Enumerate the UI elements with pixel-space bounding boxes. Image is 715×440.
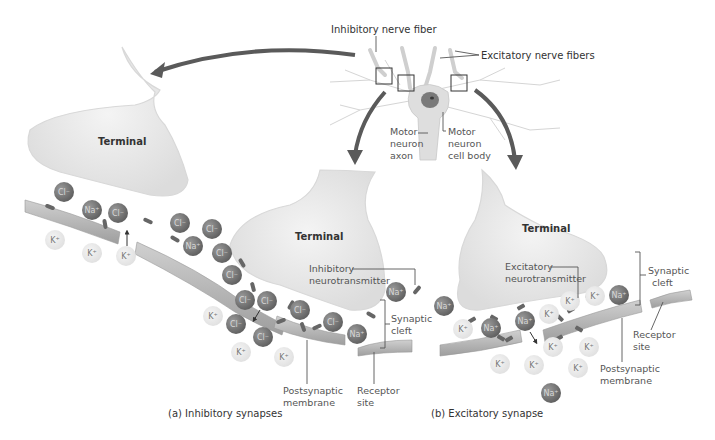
potassium-ion: K⁺ (543, 337, 563, 357)
svg-text:Na⁺: Na⁺ (436, 302, 451, 311)
svg-text:Na⁺: Na⁺ (84, 206, 99, 215)
svg-text:Na⁺: Na⁺ (611, 291, 626, 300)
postsynaptic-membrane-label-2: membrane (600, 375, 652, 386)
right-terminal: Terminal (458, 170, 607, 310)
potassium-ion: K⁺ (560, 291, 580, 311)
svg-text:Na⁺: Na⁺ (517, 317, 532, 326)
potassium-ion: K⁺ (579, 337, 599, 357)
chloride-ion: Cl⁻ (290, 300, 310, 320)
sodium-ion: Na⁺ (515, 311, 535, 331)
terminal-label: Terminal (522, 223, 570, 234)
sodium-ion: Na⁺ (481, 318, 501, 338)
arrowhead-icon (347, 150, 363, 165)
motor-axon-label-2: neuron (390, 138, 423, 149)
synaptic-cleft-label-1: Synaptic (391, 313, 432, 324)
svg-text:K⁺: K⁺ (208, 312, 217, 321)
chloride-ion: Cl⁻ (257, 291, 277, 311)
leader-line (440, 51, 479, 58)
svg-text:K⁺: K⁺ (121, 252, 130, 261)
svg-text:K⁺: K⁺ (565, 297, 574, 306)
svg-text:Na⁺: Na⁺ (543, 389, 558, 398)
excitatory-neurotransmitter-label-2: neurotransmitter (505, 273, 586, 284)
potassium-ion: K⁺ (203, 306, 223, 326)
potassium-ion: K⁺ (453, 319, 473, 339)
arrow-to-left-terminal (155, 50, 355, 72)
motor-axon-label-1: Motor (390, 126, 418, 137)
synaptic-cleft-label-2: cleft (391, 325, 412, 336)
membrane-segment (543, 300, 642, 342)
chloride-ion: Cl⁻ (253, 327, 273, 347)
ion-flow-arrow-icon (530, 332, 536, 342)
motor-body-label-2: neuron (448, 138, 481, 149)
svg-text:K⁺: K⁺ (495, 360, 504, 369)
postsynaptic-membrane-label-2: membrane (283, 397, 335, 408)
terminal-label: Terminal (295, 231, 343, 242)
receptor-membrane (650, 290, 692, 308)
sodium-ion: Na⁺ (82, 200, 102, 220)
svg-text:Na⁺: Na⁺ (483, 324, 498, 333)
cleft-bracket (380, 300, 385, 348)
potassium-ion: K⁺ (539, 304, 559, 324)
potassium-ion: K⁺ (524, 355, 544, 375)
svg-text:Cl⁻: Cl⁻ (327, 318, 339, 327)
chloride-ion: Cl⁻ (235, 290, 255, 310)
svg-text:K⁺: K⁺ (573, 364, 582, 373)
motor-body-label-1: Motor (448, 126, 476, 137)
sodium-ion: Na⁺ (347, 324, 367, 344)
caption-excitatory: (b) Excitatory synapse (431, 408, 543, 419)
svg-text:Cl⁻: Cl⁻ (294, 306, 306, 315)
arrowhead-icon (150, 62, 165, 78)
svg-text:Cl⁻: Cl⁻ (261, 297, 273, 306)
chloride-ion: Cl⁻ (108, 203, 128, 223)
chloride-ion: Cl⁻ (323, 312, 343, 332)
caption-inhibitory: (a) Inhibitory synapses (168, 408, 282, 419)
chloride-ion: Cl⁻ (170, 213, 190, 233)
excitatory-neurotransmitter-label-1: Excitatory (505, 261, 553, 272)
synapse-diagram: Inhibitory nerve fiber Excitatory nerve … (0, 0, 715, 440)
svg-text:Cl⁻: Cl⁻ (257, 333, 269, 342)
inhibitory-neurotransmitter-label-1: Inhibitory (309, 263, 355, 274)
svg-text:Cl⁻: Cl⁻ (58, 188, 70, 197)
svg-text:Cl⁻: Cl⁻ (216, 249, 228, 258)
potassium-ion: K⁺ (490, 354, 510, 374)
nucleolus (430, 97, 434, 100)
inhibitory-neurotransmitter-label-2: neurotransmitter (309, 275, 390, 286)
potassium-ion: K⁺ (116, 246, 136, 266)
synaptic-cleft-label-1: Synaptic (648, 265, 689, 276)
nucleus (421, 92, 439, 108)
arrowhead-icon (507, 155, 523, 170)
sodium-ion: Na⁺ (541, 383, 561, 403)
svg-text:K⁺: K⁺ (279, 353, 288, 362)
chloride-ion: Cl⁻ (212, 243, 232, 263)
motor-neuron-overview: Inhibitory nerve fiber Excitatory nerve … (330, 24, 595, 161)
receptor-site-label-1: Receptor (357, 385, 400, 396)
svg-text:K⁺: K⁺ (548, 343, 557, 352)
receptor-site-label-1: Receptor (633, 329, 676, 340)
leader-line (443, 112, 446, 131)
inhibitory-nerve-fiber-label: Inhibitory nerve fiber (331, 24, 437, 35)
svg-text:Na⁺: Na⁺ (185, 242, 200, 251)
arrow-to-middle-terminal (355, 92, 385, 155)
potassium-ion: K⁺ (585, 286, 605, 306)
potassium-ion: K⁺ (274, 347, 294, 367)
svg-text:K⁺: K⁺ (544, 310, 553, 319)
sodium-ion: Na⁺ (609, 285, 629, 305)
chloride-ion: Cl⁻ (54, 182, 74, 202)
svg-text:Cl⁻: Cl⁻ (239, 296, 251, 305)
cleft-bracket (635, 252, 640, 305)
chloride-ion: Cl⁻ (202, 219, 222, 239)
excitatory-nerve-fibers-label: Excitatory nerve fibers (481, 50, 595, 61)
potassium-ion: K⁺ (231, 342, 251, 362)
svg-text:Na⁺: Na⁺ (388, 288, 403, 297)
motor-body-label-3: cell body (448, 150, 491, 161)
svg-text:Cl⁻: Cl⁻ (206, 225, 218, 234)
potassium-ion: K⁺ (45, 230, 65, 250)
svg-text:K⁺: K⁺ (584, 343, 593, 352)
sodium-ion: Na⁺ (183, 236, 203, 256)
chloride-ion: Cl⁻ (222, 265, 242, 285)
svg-text:Na⁺: Na⁺ (349, 330, 364, 339)
synaptic-cleft-label-2: cleft (652, 277, 673, 288)
postsynaptic-membrane-label-1: Postsynaptic (600, 363, 660, 374)
svg-text:Cl⁻: Cl⁻ (230, 320, 242, 329)
svg-text:K⁺: K⁺ (590, 292, 599, 301)
